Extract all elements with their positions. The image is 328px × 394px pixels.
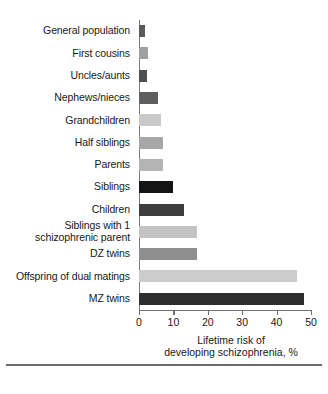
category-label-row: Siblings <box>0 176 134 198</box>
footer-rule <box>6 364 322 366</box>
category-label: Offspring of dual matings <box>16 271 130 283</box>
category-label-row: Parents <box>0 154 134 176</box>
category-label-row: DZ twins <box>0 243 134 265</box>
bar <box>139 47 148 59</box>
bar <box>139 92 158 104</box>
bar <box>139 270 297 282</box>
bar-row <box>134 154 328 176</box>
plot-area <box>134 20 328 310</box>
x-axis-tick <box>311 310 312 315</box>
x-axis-line <box>139 310 311 311</box>
bar-row <box>134 87 328 109</box>
bar-row <box>134 131 328 153</box>
bar-row <box>134 109 328 131</box>
bar-row <box>134 20 328 42</box>
bar <box>139 114 161 126</box>
category-label-row: Siblings with 1 schizophrenic parent <box>0 221 134 243</box>
x-axis-title: Lifetime risk of developing schizophreni… <box>134 334 328 359</box>
bar <box>139 204 184 216</box>
x-axis-tick-label: 40 <box>271 316 283 328</box>
bar <box>139 70 147 82</box>
x-axis-tick-label: 20 <box>202 316 214 328</box>
bar-row <box>134 42 328 64</box>
bar <box>139 181 173 193</box>
category-label-column: General populationFirst cousinsUncles/au… <box>0 20 134 310</box>
category-label-row: General population <box>0 20 134 42</box>
bar <box>139 159 163 171</box>
bar <box>139 293 304 305</box>
category-label-row: MZ twins <box>0 288 134 310</box>
category-label: Nephews/nieces <box>54 92 130 104</box>
category-label: DZ twins <box>90 248 130 260</box>
bar-row <box>134 243 328 265</box>
x-axis-tick <box>173 310 174 315</box>
category-label: Children <box>92 204 130 216</box>
x-axis-tick-label: 0 <box>136 316 142 328</box>
x-axis-tick-label: 30 <box>236 316 248 328</box>
category-label-row: Offspring of dual matings <box>0 265 134 287</box>
category-label: Siblings <box>94 181 130 193</box>
bar-row <box>134 198 328 220</box>
x-axis-tick <box>242 310 243 315</box>
x-axis-tick-label: 10 <box>168 316 180 328</box>
schizophrenia-risk-bar-chart: General populationFirst cousinsUncles/au… <box>0 0 328 394</box>
x-axis-tick <box>208 310 209 315</box>
x-axis-tick-label: 50 <box>305 316 317 328</box>
bar <box>139 137 163 149</box>
category-label: First cousins <box>72 48 130 60</box>
category-label-row: Uncles/aunts <box>0 65 134 87</box>
bar-row <box>134 176 328 198</box>
category-label-row: Nephews/nieces <box>0 87 134 109</box>
category-label: General population <box>43 25 130 37</box>
x-axis-tick <box>139 310 140 315</box>
category-label-row: Half siblings <box>0 131 134 153</box>
category-label: MZ twins <box>89 293 130 305</box>
category-label-row: First cousins <box>0 42 134 64</box>
bar-row <box>134 65 328 87</box>
category-label: Parents <box>95 159 131 171</box>
bar-row <box>134 265 328 287</box>
category-label: Half siblings <box>75 137 130 149</box>
x-axis-tick <box>277 310 278 315</box>
bar <box>139 226 197 238</box>
category-label-row: Grandchildren <box>0 109 134 131</box>
bar-row <box>134 288 328 310</box>
bar <box>139 248 197 260</box>
category-label: Uncles/aunts <box>71 70 131 82</box>
category-label: Grandchildren <box>65 115 130 127</box>
category-label: Siblings with 1 schizophrenic parent <box>35 220 130 243</box>
bar <box>139 25 145 37</box>
category-label-row: Children <box>0 198 134 220</box>
bar-row <box>134 221 328 243</box>
